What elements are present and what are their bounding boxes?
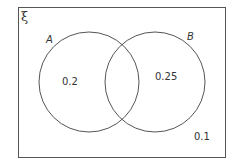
set-a-label: A [46,35,53,45]
set-a-only-value: 0.2 [62,77,78,87]
universal-set-symbol: ξ [21,10,28,23]
set-b-only-value: 0.25 [155,72,177,82]
set-b-label: B [187,32,194,42]
set-b-circle [105,32,205,132]
outside-value: 0.1 [194,132,210,142]
set-a-circle [39,32,139,132]
